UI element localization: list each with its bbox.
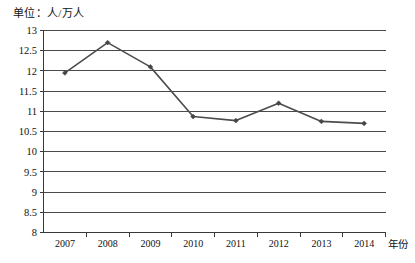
x-tick-label: 2012: [269, 238, 289, 249]
data-point-marker: [319, 119, 324, 124]
y-tick-label: 11: [27, 106, 37, 117]
x-tick-label: 2010: [183, 238, 203, 249]
x-tick-label: 2008: [98, 238, 118, 249]
y-tick-label: 10.5: [19, 126, 37, 137]
y-tick-label: 12.5: [19, 45, 37, 56]
chart-container: 单位：人/万人 1312.51211.51110.5109.598.58 200…: [0, 0, 415, 263]
y-tick-label: 11.5: [19, 86, 37, 97]
data-point-marker: [233, 118, 238, 123]
data-point-markers-group: [62, 40, 366, 126]
y-tick-label: 8: [32, 227, 37, 238]
x-tick-label: 2013: [311, 238, 331, 249]
y-tick-label: 10: [27, 146, 38, 157]
data-point-marker: [276, 101, 281, 106]
x-tick-label: 2007: [55, 238, 75, 249]
y-tick-label: 9: [32, 187, 37, 198]
x-tick-label: 2011: [226, 238, 246, 249]
x-tick-labels-group: 20072008200920102011201220132014: [55, 238, 374, 249]
x-tick-label: 2009: [140, 238, 160, 249]
y-tick-labels-group: 1312.51211.51110.5109.598.58: [19, 25, 37, 238]
y-tick-label: 9.5: [24, 167, 37, 178]
y-tick-label: 13: [27, 25, 38, 36]
y-tick-label: 8.5: [24, 207, 37, 218]
x-axis-title: 年份: [388, 238, 409, 250]
gridlines-group: [44, 31, 386, 233]
data-point-marker: [362, 121, 367, 126]
line-chart-plot: 1312.51211.51110.5109.598.58 20072008200…: [0, 0, 415, 263]
y-tick-label: 12: [27, 66, 38, 77]
x-tick-label: 2014: [354, 238, 374, 249]
